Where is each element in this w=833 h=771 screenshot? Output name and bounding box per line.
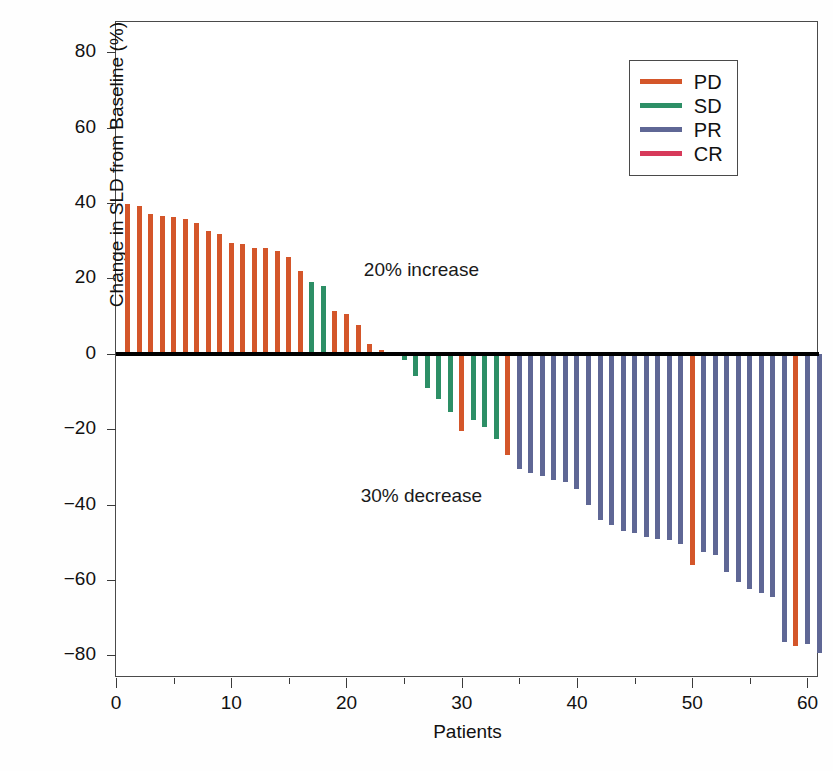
plot-area: Change in SLD from Baseline (%) 80604020…	[115, 21, 818, 677]
y-axis-tick-label: −60	[64, 568, 96, 590]
x-axis-tick	[577, 678, 578, 688]
x-axis-minor-tick	[174, 678, 175, 684]
legend-item-pr[interactable]: PR	[640, 118, 723, 142]
x-axis-tick	[692, 678, 693, 688]
y-axis-tick	[107, 278, 116, 279]
y-axis-tick-label: 0	[85, 342, 96, 364]
x-axis-minor-tick	[519, 678, 520, 684]
y-axis-tick	[107, 354, 116, 355]
y-axis-tick	[107, 580, 116, 581]
legend-item-pd[interactable]: PD	[640, 70, 723, 94]
legend-swatch-sd	[640, 103, 682, 108]
y-axis-tick-label: 40	[75, 191, 96, 213]
x-axis-tick-label: 40	[547, 692, 607, 714]
legend-item-cr[interactable]: CR	[640, 142, 723, 166]
chart-annotation: 30% decrease	[361, 485, 482, 507]
x-axis-tick	[231, 678, 232, 688]
x-axis-tick-label: 20	[316, 692, 376, 714]
legend-swatch-pr	[640, 127, 682, 132]
x-axis-tick	[807, 678, 808, 688]
y-axis-tick	[107, 505, 116, 506]
x-axis-tick	[346, 678, 347, 688]
y-axis-tick	[107, 203, 116, 204]
y-axis-tick-label: 20	[75, 266, 96, 288]
y-axis-tick	[107, 429, 116, 430]
y-axis-tick	[107, 52, 116, 53]
x-axis-tick	[116, 678, 117, 688]
x-axis-minor-tick	[635, 678, 636, 684]
x-axis-tick-label: 30	[432, 692, 492, 714]
x-axis-tick	[462, 678, 463, 688]
x-axis-tick-label: 0	[86, 692, 146, 714]
y-axis-tick-label: −20	[64, 417, 96, 439]
y-axis-tick-label: 80	[75, 40, 96, 62]
y-axis-tick-label: 60	[75, 116, 96, 138]
x-axis-tick-label: 50	[662, 692, 722, 714]
legend-label: PR	[694, 120, 722, 140]
y-axis-tick	[107, 655, 116, 656]
x-axis-title: Patients	[116, 721, 819, 743]
legend: PDSDPRCR	[629, 60, 738, 176]
legend-label: SD	[694, 96, 722, 116]
legend-label: PD	[694, 72, 722, 92]
y-axis-tick-label: −80	[64, 643, 96, 665]
legend-item-sd[interactable]: SD	[640, 94, 723, 118]
y-axis-tick	[107, 128, 116, 129]
legend-swatch-cr	[640, 151, 682, 156]
x-axis-tick-label: 60	[777, 692, 833, 714]
x-axis-minor-tick	[289, 678, 290, 684]
waterfall-chart-figure: Change in SLD from Baseline (%) 80604020…	[0, 0, 833, 771]
x-axis-tick-label: 10	[201, 692, 261, 714]
x-axis-minor-tick	[750, 678, 751, 684]
y-axis-tick-label: −40	[64, 493, 96, 515]
x-axis-minor-tick	[404, 678, 405, 684]
legend-label: CR	[694, 144, 723, 164]
legend-swatch-pd	[640, 79, 682, 84]
chart-annotation: 20% increase	[364, 259, 479, 281]
